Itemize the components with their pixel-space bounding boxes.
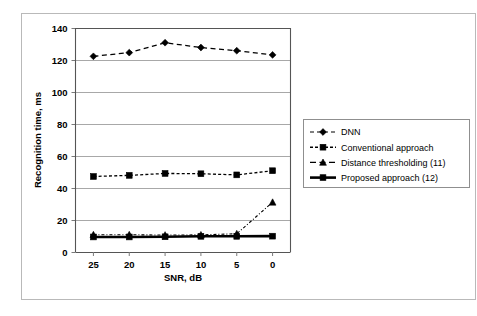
y-tick-label: 80 xyxy=(57,119,68,130)
diamond-marker xyxy=(233,47,240,54)
diamond-marker xyxy=(90,53,97,60)
triangle-marker xyxy=(269,199,276,205)
chart-legend: DNNConventional approachDistance thresho… xyxy=(304,120,470,188)
square-marker xyxy=(198,171,204,177)
series-dnn xyxy=(90,39,276,59)
y-tick-label: 140 xyxy=(52,23,68,34)
gridlines xyxy=(76,29,291,221)
diamond-marker xyxy=(162,39,169,46)
y-tick-label: 120 xyxy=(52,55,68,66)
series-line xyxy=(93,236,272,237)
legend-label: Proposed approach (12) xyxy=(341,173,438,183)
square-marker xyxy=(91,234,97,240)
legend-label: Conventional approach xyxy=(341,143,434,153)
square-marker xyxy=(270,168,276,174)
recognition-time-line-chart: Recognition time, ms 020406080100120140 … xyxy=(0,0,477,316)
series-line xyxy=(93,171,272,177)
y-tick-label: 60 xyxy=(57,151,68,162)
square-marker xyxy=(162,234,168,240)
square-marker xyxy=(126,172,132,178)
series-distance-thresholding-11 xyxy=(90,199,276,238)
diamond-marker xyxy=(269,51,276,58)
square-marker xyxy=(234,233,240,239)
y-tick-group: 020406080100120140 xyxy=(52,23,76,258)
y-axis-title: Recognition time, ms xyxy=(32,92,43,188)
y-tick-label: 20 xyxy=(57,215,68,226)
square-marker xyxy=(234,172,240,178)
series-line xyxy=(93,202,272,235)
y-tick-label: 100 xyxy=(52,87,68,98)
square-marker xyxy=(162,171,168,177)
diamond-marker xyxy=(126,49,133,56)
x-tick-label: 0 xyxy=(270,259,275,270)
x-axis-title: SNR, dB xyxy=(164,272,202,283)
legend-label: Distance thresholding (11) xyxy=(341,158,445,168)
x-tick-group: 2520151050 xyxy=(88,252,275,270)
square-marker xyxy=(126,234,132,240)
series-conventional-approach xyxy=(91,168,276,180)
x-tick-label: 25 xyxy=(88,259,99,270)
legend-label: DNN xyxy=(341,127,361,137)
y-tick-label: 40 xyxy=(57,183,68,194)
x-tick-label: 10 xyxy=(196,259,207,270)
y-tick-label: 0 xyxy=(62,247,67,258)
series-layer xyxy=(90,39,276,240)
series-line xyxy=(93,43,272,57)
square-marker xyxy=(91,174,97,180)
square-marker xyxy=(320,175,326,181)
square-marker xyxy=(270,233,276,239)
x-tick-label: 5 xyxy=(234,259,240,270)
diamond-marker xyxy=(198,44,205,51)
x-tick-label: 15 xyxy=(160,259,171,270)
square-marker xyxy=(198,233,204,239)
chart-area: Recognition time, ms 020406080100120140 … xyxy=(0,0,477,316)
square-marker xyxy=(320,144,326,150)
x-tick-label: 20 xyxy=(124,259,135,270)
